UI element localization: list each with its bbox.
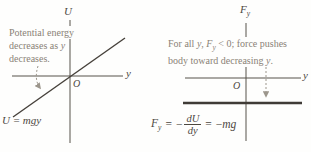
- right-y-axis-label: Fy: [240, 3, 250, 18]
- left-annotation: Potential energy decreases as y decrease…: [8, 26, 75, 65]
- left-annotation-line2-var: y: [61, 40, 65, 51]
- right-annotation-line1: For all y, Fy < 0; force pushes: [167, 37, 288, 54]
- figure-canvas: U y O Potential energy decreases as y de…: [0, 0, 311, 152]
- right-x-axis-label: y: [303, 69, 308, 81]
- force-symbol: F: [151, 117, 158, 129]
- left-annotation-line2: decreases as y: [8, 39, 66, 52]
- force-equation-equals2: =: [205, 118, 212, 130]
- left-annotation-arrow: [36, 66, 40, 88]
- force-equation-minus1: −: [176, 118, 183, 130]
- left-origin-label: O: [73, 78, 80, 89]
- left-y-axis-label: U: [64, 5, 72, 17]
- force-equation-equals1: =: [165, 118, 172, 130]
- potential-energy-equation: U = mgy: [2, 114, 41, 126]
- left-annotation-line2-text: decreases as: [9, 40, 61, 51]
- right-annotation-l1-text2: < 0; force pushes: [216, 38, 287, 49]
- derivative-numerator: dU: [184, 113, 201, 125]
- right-y-axis-label-main: F: [240, 3, 247, 15]
- force-equation: Fy = − dUdy = −mg: [150, 111, 237, 137]
- left-annotation-line1: Potential energy: [8, 26, 75, 39]
- right-annotation-l2-text: body toward decreasing: [168, 55, 266, 66]
- right-annotation-l2-period: .: [270, 55, 273, 66]
- force-equation-mg: mg: [222, 118, 236, 130]
- right-annotation: For all y, Fy < 0; force pushes body tow…: [167, 37, 288, 67]
- force-symbol-sub: y: [158, 122, 161, 131]
- derivative-denominator: dy: [186, 125, 200, 136]
- right-annotation-line2: body toward decreasing y.: [167, 54, 274, 67]
- derivative-fraction: dUdy: [184, 113, 201, 136]
- right-origin-label: O: [233, 80, 240, 91]
- force-equation-rhs: −mg: [216, 118, 237, 130]
- force-equation-lhs: Fy: [151, 117, 161, 132]
- right-y-axis-label-sub: y: [247, 9, 250, 18]
- left-annotation-line3: decreases.: [8, 52, 51, 65]
- left-x-axis-label: y: [126, 67, 131, 79]
- right-annotation-l1-text1: For all: [168, 38, 197, 49]
